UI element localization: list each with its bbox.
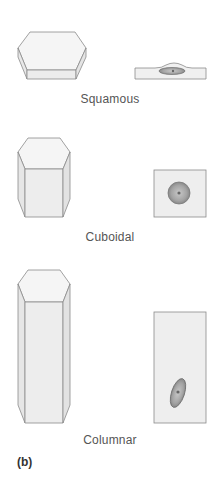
label-squamous: Squamous [81, 92, 140, 106]
label-cuboidal: Cuboidal [86, 230, 135, 244]
label-columnar: Columnar [83, 433, 137, 447]
cuboidal-prism [18, 138, 70, 217]
panel-label: (b) [17, 455, 32, 469]
columnar-prism [18, 270, 70, 423]
columnar-section [154, 312, 206, 423]
epithelial-cell-shapes-diagram [0, 0, 221, 492]
cuboidal-section [154, 170, 206, 217]
squamous-prism [18, 32, 86, 79]
squamous-section [135, 63, 206, 79]
